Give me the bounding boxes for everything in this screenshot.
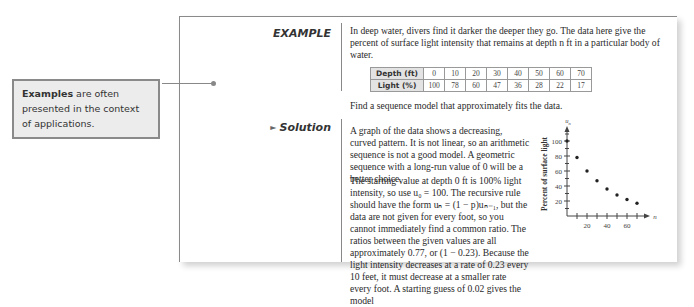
y-axis-label: Percent of surface light xyxy=(540,136,549,211)
svg-text:n: n xyxy=(653,213,657,221)
row-header: Light (%) xyxy=(371,80,424,92)
table-cell: 60 xyxy=(550,68,571,80)
depth-light-table: Depth (ft) 0 10 20 30 40 50 60 70 Light … xyxy=(370,67,592,92)
table-row: Depth (ft) 0 10 20 30 40 50 60 70 xyxy=(371,68,592,80)
callout-leader-line xyxy=(162,83,214,84)
solution-label: ►Solution xyxy=(180,121,331,134)
table-cell: 20 xyxy=(466,68,487,80)
svg-text:40: 40 xyxy=(604,222,612,230)
table-cell: 78 xyxy=(445,80,466,92)
triangle-arrow-icon: ► xyxy=(270,123,276,132)
table-cell: 36 xyxy=(508,80,529,92)
table-cell: 30 xyxy=(487,68,508,80)
row-header: Depth (ft) xyxy=(371,68,424,80)
svg-text:20: 20 xyxy=(555,198,563,206)
example-intro: In deep water, divers find it darker the… xyxy=(350,25,670,61)
example-divider xyxy=(341,23,342,91)
svg-text:60: 60 xyxy=(624,222,632,230)
margin-callout: Examples are often presented in the cont… xyxy=(12,79,160,139)
table-cell: 70 xyxy=(571,68,592,80)
table-cell: 17 xyxy=(571,80,592,92)
svg-text:20: 20 xyxy=(584,222,592,230)
table-cell: 50 xyxy=(529,68,550,80)
table-cell: 0 xyxy=(424,68,445,80)
table-cell: 10 xyxy=(445,68,466,80)
callout-bold: Examples xyxy=(22,88,73,99)
table-cell: 22 xyxy=(550,80,571,92)
solution-paragraph-2: The starting value at depth 0 ft is 100%… xyxy=(350,175,530,307)
example-label: EXAMPLE xyxy=(180,27,331,40)
table-cell: 100 xyxy=(424,80,445,92)
solution-label-text: Solution xyxy=(280,121,332,134)
table-cell: 40 xyxy=(508,68,529,80)
scatter-plot: 204060 80100 204060 n un Depth (ft) Perc… xyxy=(520,112,660,232)
table-cell: 47 xyxy=(487,80,508,92)
svg-text:40: 40 xyxy=(555,183,563,191)
table-cell: 60 xyxy=(466,80,487,92)
solution-divider xyxy=(341,119,342,262)
data-points xyxy=(565,139,638,205)
svg-text:80: 80 xyxy=(555,153,563,161)
svg-text:un: un xyxy=(565,117,571,126)
svg-text:60: 60 xyxy=(555,168,563,176)
table-row: Light (%) 100 78 60 47 36 28 22 17 xyxy=(371,80,592,92)
callout-leader-dot xyxy=(211,81,216,86)
table-cell: 28 xyxy=(529,80,550,92)
example-task: Find a sequence model that approximately… xyxy=(350,100,670,112)
svg-text:100: 100 xyxy=(552,138,563,146)
